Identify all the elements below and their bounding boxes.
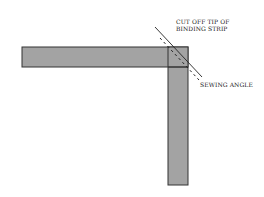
sewing-angle-label: SEWING ANGLE [200,81,253,88]
binding-diagram: CUT OFF TIP OF BINDING STRIP SEWING ANGL… [0,0,264,197]
vertical-binding-strip [168,47,188,185]
cut-tip-label-line2: BINDING STRIP [176,25,228,32]
horizontal-binding-strip [22,47,188,67]
cut-tip-label-line1: CUT OFF TIP OF [176,18,230,25]
